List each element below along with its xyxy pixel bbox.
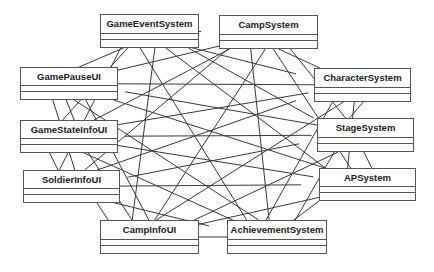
association-line xyxy=(113,100,327,169)
association-line xyxy=(279,49,320,68)
class-name: GameEventSystem xyxy=(101,15,198,34)
association-line xyxy=(251,49,269,220)
class-name: CampSystem xyxy=(220,16,317,35)
class-operations-compartment xyxy=(320,193,415,200)
class-attributes-compartment xyxy=(220,35,317,42)
association-line xyxy=(66,100,74,120)
class-name-text: CampInfoUI xyxy=(123,224,176,235)
class-box-game-state-info-ui[interactable]: GameStateInfoUI xyxy=(20,120,118,153)
class-attributes-compartment xyxy=(101,240,198,247)
class-box-game-event-system[interactable]: GameEventSystem xyxy=(100,14,199,48)
association-line xyxy=(140,48,247,220)
class-name-text: GameEventSystem xyxy=(106,18,192,29)
association-line xyxy=(364,152,372,168)
class-operations-compartment xyxy=(101,246,198,253)
class-box-stage-system[interactable]: StageSystem xyxy=(317,118,414,152)
class-operations-compartment xyxy=(21,145,117,152)
association-line xyxy=(166,48,326,168)
class-name-text: SoldierInfoUI xyxy=(42,174,101,185)
class-name: CampInfoUI xyxy=(101,221,198,240)
class-box-camp-system[interactable]: CampSystem xyxy=(219,15,318,49)
association-line xyxy=(100,93,309,128)
class-name-text: AchievementSystem xyxy=(231,224,324,235)
class-name: StageSystem xyxy=(318,119,413,138)
class-attributes-compartment xyxy=(315,88,410,95)
association-line xyxy=(115,185,301,186)
class-name-text: CharacterSystem xyxy=(323,72,401,83)
association-line xyxy=(125,92,324,127)
class-name: SoldierInfoUI xyxy=(24,171,119,189)
class-operations-compartment xyxy=(315,94,410,101)
class-name: AchievementSystem xyxy=(228,221,326,240)
class-operations-compartment xyxy=(101,40,198,47)
association-line xyxy=(100,84,321,85)
class-name: GameStateInfoUI xyxy=(21,121,117,139)
class-box-character-system[interactable]: CharacterSystem xyxy=(314,68,411,102)
association-line xyxy=(194,152,338,220)
class-name-text: GameStateInfoUI xyxy=(31,124,108,135)
class-name-text: CampSystem xyxy=(238,19,298,30)
association-line xyxy=(188,48,313,118)
association-line xyxy=(127,144,299,178)
class-attributes-compartment xyxy=(228,240,326,247)
class-box-game-pause-ui[interactable]: GamePauseUI xyxy=(20,67,118,100)
association-line xyxy=(294,201,319,220)
association-line xyxy=(113,44,227,71)
class-name: GamePauseUI xyxy=(21,68,117,86)
class-operations-compartment xyxy=(318,144,413,151)
association-line xyxy=(350,102,364,118)
class-name-text: GamePauseUI xyxy=(37,71,101,82)
class-box-camp-info-ui[interactable]: CampInfoUI xyxy=(100,220,199,254)
class-name-text: APSystem xyxy=(344,172,391,183)
class-name-text: StageSystem xyxy=(336,122,396,133)
association-line xyxy=(50,153,58,170)
class-attributes-compartment xyxy=(101,34,198,41)
class-name: CharacterSystem xyxy=(315,69,410,88)
class-box-soldier-info-ui[interactable]: SoldierInfoUI xyxy=(23,170,120,203)
class-name: APSystem xyxy=(320,169,415,187)
class-attributes-compartment xyxy=(318,138,413,145)
association-line xyxy=(79,48,123,67)
association-line xyxy=(97,203,108,220)
class-operations-compartment xyxy=(24,195,119,202)
class-operations-compartment xyxy=(21,92,117,99)
class-box-achievement-system[interactable]: AchievementSystem xyxy=(227,220,327,254)
class-operations-compartment xyxy=(228,246,326,253)
class-box-apsystem[interactable]: APSystem xyxy=(319,168,416,201)
class-operations-compartment xyxy=(220,41,317,48)
